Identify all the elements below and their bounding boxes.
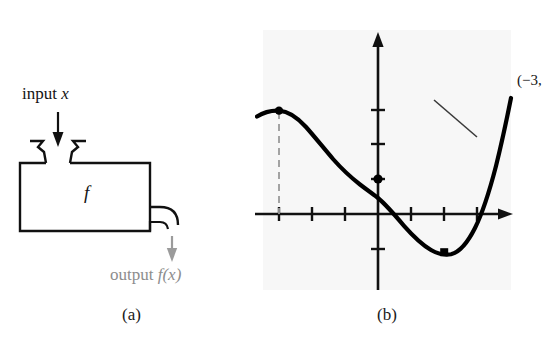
plot-background [263,30,511,290]
output-arrow-icon [167,236,177,262]
machine-diagram-svg [0,0,266,354]
machine-body-label: f [84,182,89,204]
input-label-text: input [22,84,57,103]
input-label: input x [22,84,69,104]
point-marker-zero [373,174,382,183]
input-label-var: x [61,84,69,103]
graph-svg [255,0,542,354]
hopper-right-lip [70,141,86,163]
output-label-expr: f(x) [158,265,182,284]
output-label: output f(x) [110,265,181,285]
point-marker-neg3 [275,106,283,114]
hopper-left-lip [30,141,46,163]
caption-a: (a) [122,305,141,325]
point-label-neg3: (−3, f(−3)) [517,72,542,89]
figure-root: input x f output f(x) (a) [0,0,542,354]
point-marker-two [440,248,448,256]
panel-a-function-machine: input x f output f(x) (a) [0,0,266,354]
output-spout-inner [150,222,168,231]
output-label-text: output [110,265,153,284]
caption-b: (b) [377,305,397,325]
input-arrow-icon [53,112,64,147]
panel-b-graph: y x −3 −2 −1 1 2 3 −1 1 2 3 (−3, f(−3)) … [255,0,542,354]
